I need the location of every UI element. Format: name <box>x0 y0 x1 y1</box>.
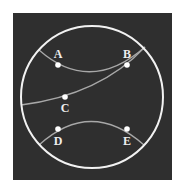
diagram-canvas: A B C D E <box>0 0 181 191</box>
point-A <box>55 62 61 68</box>
label-B: B <box>123 47 131 61</box>
point-B <box>124 62 130 68</box>
label-A: A <box>54 47 63 61</box>
label-D: D <box>54 134 63 148</box>
point-C <box>62 94 68 100</box>
point-D <box>55 126 61 132</box>
poincare-disk-diagram: A B C D E <box>0 0 181 191</box>
label-E: E <box>123 134 131 148</box>
dark-panel <box>13 13 172 180</box>
label-C: C <box>61 101 70 115</box>
point-E <box>124 126 130 132</box>
